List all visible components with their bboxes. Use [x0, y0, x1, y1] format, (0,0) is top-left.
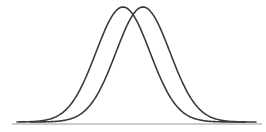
right-bell-curve: [30, 7, 256, 122]
left-bell-curve: [17, 7, 245, 122]
two-bell-curves-diagram: [0, 0, 266, 132]
diagram-svg: [0, 0, 266, 132]
